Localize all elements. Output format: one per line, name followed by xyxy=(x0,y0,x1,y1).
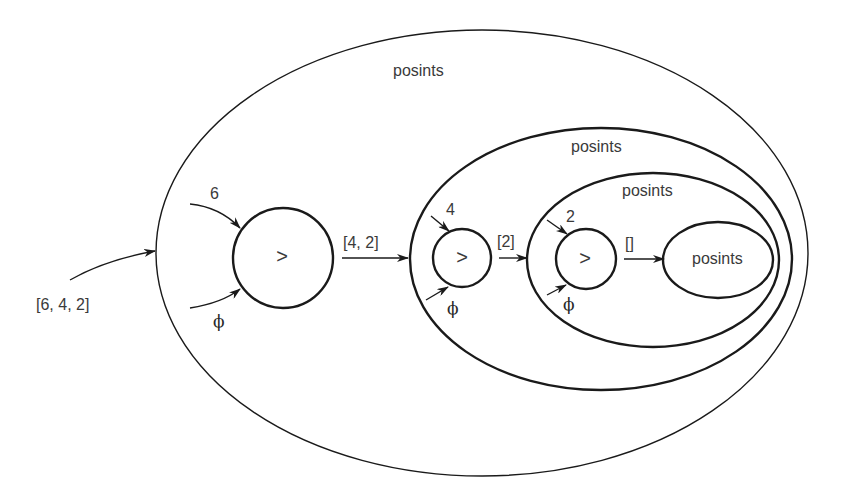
filter-op-3: > xyxy=(579,247,591,269)
posints-diagram: posints [6, 4, 2] > 6 ϕ [4, 2] posints >… xyxy=(0,0,845,500)
filter-op-2: > xyxy=(456,246,468,268)
set-label-level-1: posints xyxy=(393,62,444,79)
set-label-level-2: posints xyxy=(571,138,622,155)
output-label-3: [] xyxy=(625,235,634,252)
head-input-label-3: 2 xyxy=(566,208,575,225)
tail-arrow-1 xyxy=(190,289,240,308)
head-arrow-1 xyxy=(190,204,240,228)
tail-input-label-1: ϕ xyxy=(213,311,225,331)
tail-arrow-2 xyxy=(426,287,448,300)
set-label-level-4: posints xyxy=(692,250,743,267)
head-arrow-2 xyxy=(431,216,449,231)
head-arrow-3 xyxy=(547,220,567,234)
tail-input-label-3: ϕ xyxy=(563,294,575,314)
head-input-label-2: 4 xyxy=(446,201,455,218)
filter-op-1: > xyxy=(276,245,288,267)
set-label-level-3: posints xyxy=(622,182,673,199)
output-label-1: [4, 2] xyxy=(343,234,379,251)
input-arrow xyxy=(70,251,155,280)
head-input-label-1: 6 xyxy=(210,185,219,202)
output-label-2: [2] xyxy=(497,233,515,250)
tail-input-label-2: ϕ xyxy=(447,298,459,318)
input-list-label: [6, 4, 2] xyxy=(36,296,89,313)
